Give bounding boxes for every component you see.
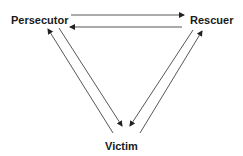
node-rescuer: Rescuer — [190, 14, 233, 26]
arrow-victim-to-persecutor — [48, 29, 113, 133]
arrow-rescuer-to-victim — [130, 30, 193, 126]
arrow-victim-to-rescuer — [140, 31, 202, 133]
arrow-persecutor-to-victim — [59, 28, 122, 126]
node-persecutor: Persecutor — [11, 14, 68, 26]
node-victim: Victim — [105, 140, 138, 152]
